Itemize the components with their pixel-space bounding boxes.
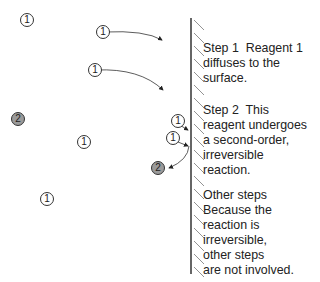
reagent-1-molecule: 1 [171,114,185,128]
diffusion-arrow-2 [96,70,163,90]
reagent-1-molecule: 1 [166,131,180,145]
reagent-2-molecule: 2 [151,161,165,175]
reagent-1-molecule: 1 [40,192,54,206]
step1-text: Step 1 Reagent 1 diffuses to the surface… [203,41,303,86]
reagent-1-molecule: 1 [77,135,91,149]
diffusion-reaction-diagram: 111211121 Step 1 Reagent 1 diffuses to t… [0,0,320,282]
step2-text: Step 2 This reagent undergoes a second-o… [203,103,307,178]
diffusion-arrow-1 [104,32,162,40]
reagent-1-molecule: 1 [88,63,102,77]
product-arrow [169,146,189,168]
reagent-1-molecule: 1 [20,13,34,27]
reagent-1-molecule: 1 [96,25,110,39]
other-steps-text: Other steps Because the reaction is irre… [203,188,294,278]
reagent-2-molecule: 2 [11,112,25,126]
